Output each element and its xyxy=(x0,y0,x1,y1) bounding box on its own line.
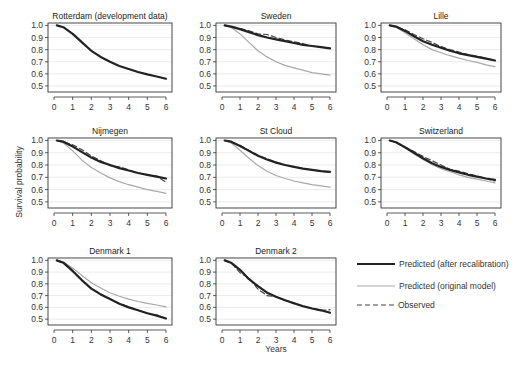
panel-title: Sweden xyxy=(261,11,292,21)
x-tick-label: 0 xyxy=(52,218,57,228)
x-tick-label: 0 xyxy=(385,218,390,228)
x-tick-label: 6 xyxy=(493,218,498,228)
y-tick-label: 1.0 xyxy=(199,255,211,265)
y-tick-label: 0.5 xyxy=(199,197,211,207)
x-tick-label: 3 xyxy=(108,218,113,228)
y-tick-label: 1.0 xyxy=(31,255,43,265)
x-tick-label: 1 xyxy=(238,102,243,112)
x-tick-label: 6 xyxy=(164,102,169,112)
plot-frame xyxy=(216,23,336,92)
x-tick-label: 0 xyxy=(52,335,57,345)
panel-title: Rotterdam (development data) xyxy=(52,11,167,21)
y-tick-label: 0.8 xyxy=(31,45,43,55)
y-tick-label: 0.9 xyxy=(364,33,376,43)
plot-frame xyxy=(48,138,172,208)
series-orig-line xyxy=(225,260,330,312)
x-tick-label: 4 xyxy=(292,218,297,228)
y-tick-label: 0.7 xyxy=(31,291,43,301)
x-tick-label: 5 xyxy=(475,102,480,112)
y-tick-label: 0.9 xyxy=(364,148,376,158)
x-tick-label: 1 xyxy=(238,218,243,228)
y-tick-label: 0.8 xyxy=(364,160,376,170)
x-tick-label: 3 xyxy=(439,218,444,228)
series-recal-line xyxy=(225,141,330,172)
y-tick-label: 0.6 xyxy=(199,69,211,79)
panel-denmark-1: Denmark 10.50.60.70.80.91.00123456 xyxy=(31,246,172,345)
y-tick-label: 0.9 xyxy=(31,267,43,277)
x-tick-label: 2 xyxy=(89,218,94,228)
x-tick-label: 0 xyxy=(52,102,57,112)
y-tick-label: 1.0 xyxy=(364,135,376,145)
y-tick-label: 0.5 xyxy=(31,81,43,91)
legend-label-obs: Observed xyxy=(398,300,435,310)
x-tick-label: 4 xyxy=(292,335,297,345)
x-tick-label: 2 xyxy=(89,335,94,345)
series-recal-line xyxy=(57,141,166,179)
x-tick-label: 2 xyxy=(256,102,261,112)
y-tick-label: 1.0 xyxy=(199,20,211,30)
survival-small-multiples-figure: Rotterdam (development data)0.50.60.70.8… xyxy=(0,0,517,365)
y-tick-label: 0.8 xyxy=(199,160,211,170)
y-tick-label: 0.7 xyxy=(199,172,211,182)
x-tick-label: 0 xyxy=(220,102,225,112)
plot-frame xyxy=(381,138,501,208)
x-tick-label: 1 xyxy=(70,218,75,228)
x-tick-label: 5 xyxy=(310,335,315,345)
panel-title: Lille xyxy=(433,11,448,21)
panel-lille: Lille0.50.60.70.80.91.00123456 xyxy=(364,11,501,112)
y-axis-label: Survival probability xyxy=(14,146,24,218)
y-tick-label: 0.8 xyxy=(199,279,211,289)
x-tick-label: 5 xyxy=(310,218,315,228)
y-tick-label: 0.9 xyxy=(31,148,43,158)
x-tick-label: 2 xyxy=(256,218,261,228)
y-tick-label: 0.9 xyxy=(31,33,43,43)
x-tick-label: 1 xyxy=(70,102,75,112)
x-tick-label: 3 xyxy=(108,102,113,112)
y-tick-label: 0.8 xyxy=(31,279,43,289)
plot-frame xyxy=(216,138,336,208)
y-tick-label: 0.6 xyxy=(199,185,211,195)
x-tick-label: 5 xyxy=(145,102,150,112)
panel-st-cloud: St Cloud0.50.60.70.80.91.00123456 xyxy=(199,126,336,228)
x-tick-label: 2 xyxy=(89,102,94,112)
x-tick-label: 5 xyxy=(145,218,150,228)
panel-switzerland: Switzerland0.50.60.70.80.91.00123456 xyxy=(364,126,501,228)
y-tick-label: 0.7 xyxy=(364,57,376,67)
x-tick-label: 0 xyxy=(385,102,390,112)
x-tick-label: 6 xyxy=(328,102,333,112)
y-tick-label: 0.5 xyxy=(31,314,43,324)
x-tick-label: 4 xyxy=(292,102,297,112)
series-recal-line xyxy=(57,25,166,78)
x-tick-label: 1 xyxy=(238,335,243,345)
plot-frame xyxy=(216,258,336,325)
y-tick-label: 0.7 xyxy=(31,172,43,182)
y-tick-label: 0.5 xyxy=(31,197,43,207)
x-tick-label: 6 xyxy=(328,218,333,228)
x-tick-label: 4 xyxy=(457,218,462,228)
series-recal-line xyxy=(225,260,330,312)
series-recal-line xyxy=(390,25,495,60)
series-orig-line xyxy=(225,25,330,75)
x-tick-label: 6 xyxy=(164,218,169,228)
y-tick-label: 1.0 xyxy=(199,135,211,145)
x-tick-label: 3 xyxy=(274,102,279,112)
series-recal-line xyxy=(390,141,495,180)
x-tick-label: 1 xyxy=(403,218,408,228)
x-tick-label: 2 xyxy=(256,335,261,345)
y-tick-label: 0.7 xyxy=(199,291,211,301)
x-tick-label: 5 xyxy=(145,335,150,345)
panel-title: Switzerland xyxy=(419,126,463,136)
x-tick-label: 4 xyxy=(457,102,462,112)
y-tick-label: 0.8 xyxy=(199,45,211,55)
panel-title: Denmark 1 xyxy=(89,246,131,256)
series-orig-line xyxy=(57,141,166,194)
panel-title: Nijmegen xyxy=(92,126,128,136)
panels-layer: Rotterdam (development data)0.50.60.70.8… xyxy=(31,11,501,345)
x-tick-label: 3 xyxy=(439,102,444,112)
legend-label-recal: Predicted (after recalibration) xyxy=(399,259,509,269)
legend: Predicted (after recalibration)Predicted… xyxy=(357,259,509,310)
y-tick-label: 0.9 xyxy=(199,148,211,158)
y-tick-label: 0.7 xyxy=(364,172,376,182)
y-tick-label: 0.7 xyxy=(31,57,43,67)
plot-frame xyxy=(48,23,172,92)
